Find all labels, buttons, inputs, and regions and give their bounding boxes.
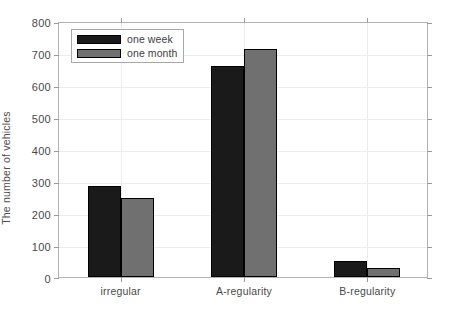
y-tick-label: 700 <box>32 49 51 61</box>
y-tick-mark-right <box>427 215 432 216</box>
y-tick-mark <box>54 151 59 152</box>
x-tick-label: A-regularity <box>216 285 272 297</box>
gridline-vertical <box>367 23 368 277</box>
y-tick-mark-right <box>427 151 432 152</box>
y-tick-label: 100 <box>32 241 51 253</box>
bar <box>367 268 400 277</box>
x-tick-mark-top <box>121 18 122 23</box>
y-tick-mark <box>54 278 59 279</box>
bar <box>211 66 244 277</box>
y-tick-mark-right <box>427 247 432 248</box>
y-tick-mark-right <box>427 55 432 56</box>
bar <box>244 49 277 277</box>
bar <box>88 186 121 277</box>
y-tick-mark <box>54 55 59 56</box>
bar-chart-figure: The number of vehicles 01002003004005006… <box>0 0 449 312</box>
legend-item[interactable]: one week <box>77 33 178 45</box>
x-tick-mark-top <box>244 18 245 23</box>
bar <box>334 261 367 277</box>
chart-legend[interactable]: one weekone month <box>71 29 184 63</box>
x-tick-mark <box>367 277 368 282</box>
y-tick-mark-right <box>427 278 432 279</box>
y-tick-mark <box>54 23 59 24</box>
x-tick-label: B-regularity <box>339 285 395 297</box>
x-tick-mark <box>244 277 245 282</box>
y-tick-mark <box>54 119 59 120</box>
y-tick-mark-right <box>427 119 432 120</box>
bar <box>121 198 154 277</box>
x-tick-mark <box>121 277 122 282</box>
legend-swatch-icon <box>77 49 121 58</box>
y-tick-mark-right <box>427 23 432 24</box>
legend-item[interactable]: one month <box>77 47 178 59</box>
x-tick-mark-top <box>367 18 368 23</box>
y-tick-mark <box>54 87 59 88</box>
x-tick-label: irregular <box>100 285 140 297</box>
legend-label: one week <box>127 33 173 45</box>
y-tick-mark-right <box>427 87 432 88</box>
y-axis-title: The number of vehicles <box>0 12 26 312</box>
y-tick-mark <box>54 183 59 184</box>
y-tick-label: 400 <box>32 145 51 157</box>
y-tick-label: 500 <box>32 113 51 125</box>
y-tick-label: 800 <box>32 17 51 29</box>
y-tick-label: 200 <box>32 209 51 221</box>
plot-area: 0100200300400500600700800 irregularA-reg… <box>58 22 428 278</box>
y-tick-label: 0 <box>45 273 51 285</box>
y-tick-mark <box>54 215 59 216</box>
legend-label: one month <box>127 47 178 59</box>
y-tick-label: 600 <box>32 81 51 93</box>
y-tick-mark <box>54 247 59 248</box>
y-tick-mark-right <box>427 183 432 184</box>
y-tick-label: 300 <box>32 177 51 189</box>
legend-swatch-icon <box>77 35 121 44</box>
